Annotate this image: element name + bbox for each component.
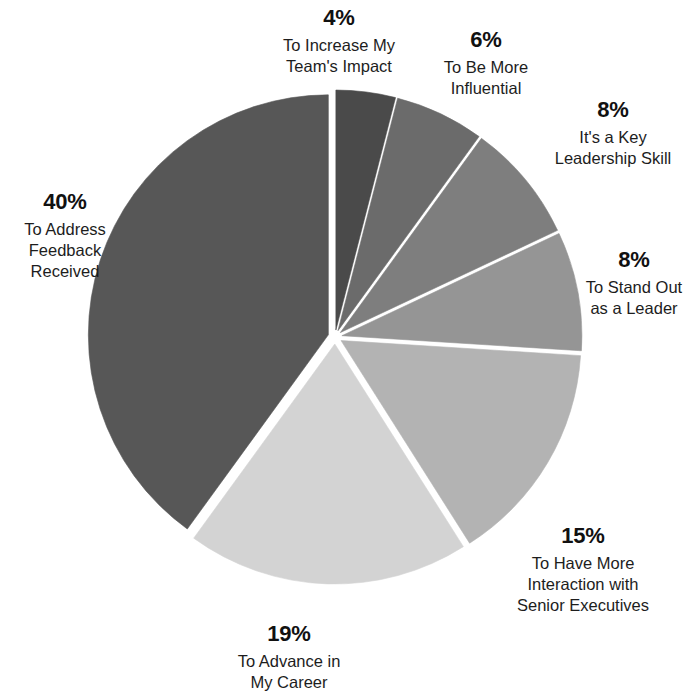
pie-callout-percent: 8% (528, 96, 698, 125)
pie-callout-label: It's a Key Leadership Skill (528, 127, 698, 170)
pie-callout-percent: 4% (244, 4, 434, 33)
pie-callout-percent: 19% (186, 620, 392, 649)
pie-callout-label: To Advance in My Career (186, 651, 392, 693)
pie-callout-interaction-senior-executives: 15% To Have More Interaction with Senior… (476, 522, 690, 617)
pie-chart: 4% To Increase My Team's Impact 6% To Be… (0, 0, 700, 693)
pie-slice-group (88, 90, 582, 584)
pie-callout-label: To Be More Influential (412, 57, 560, 100)
pie-callout-percent: 6% (412, 26, 560, 55)
pie-callout-key-leadership-skill: 8% It's a Key Leadership Skill (528, 96, 698, 169)
pie-callout-be-more-influential: 6% To Be More Influential (412, 26, 560, 99)
pie-callout-stand-out-as-leader: 8% To Stand Out as a Leader (568, 246, 700, 319)
pie-callout-label: To Address Feedback Received (2, 219, 128, 283)
pie-callout-advance-in-my-career: 19% To Advance in My Career (186, 620, 392, 693)
pie-callout-label: To Stand Out as a Leader (568, 277, 700, 320)
pie-callout-percent: 40% (2, 188, 128, 217)
pie-callout-address-feedback-received: 40% To Address Feedback Received (2, 188, 128, 283)
pie-callout-label: To Increase My Team's Impact (244, 35, 434, 78)
pie-callout-label: To Have More Interaction with Senior Exe… (476, 553, 690, 617)
pie-callout-increase-team-impact: 4% To Increase My Team's Impact (244, 4, 434, 77)
pie-callout-percent: 15% (476, 522, 690, 551)
pie-callout-percent: 8% (568, 246, 700, 275)
